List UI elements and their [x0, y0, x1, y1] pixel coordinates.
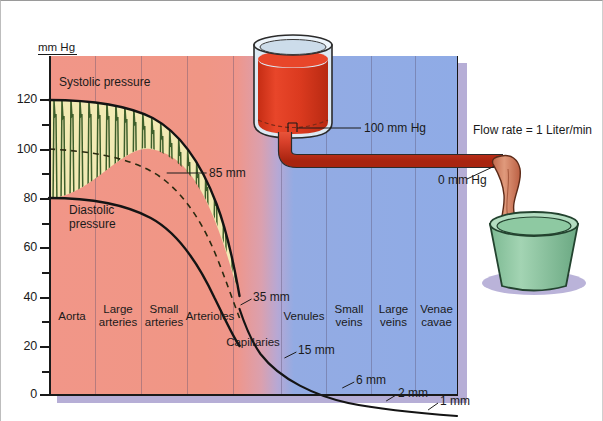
beaker-rim-outer [254, 35, 332, 55]
leader-line-35mm [241, 299, 252, 305]
pouring-fluid-stream [492, 156, 521, 249]
value-label-2mm: 2 mm [398, 386, 428, 400]
y-tick-label-0: 0 [7, 387, 37, 401]
y-tick-0 [40, 394, 49, 396]
y-tick-label-20: 20 [7, 339, 37, 353]
y-tick-60 [40, 247, 49, 249]
x-axis-line [49, 394, 458, 396]
value-label-85mm: 85 mm [209, 166, 246, 180]
leader-line-1mm [428, 403, 438, 410]
flow-rate-label: Flow rate = 1 Liter/min [473, 123, 592, 137]
systolic-pressure-label: Systolic pressure [59, 76, 150, 90]
y-tick-20 [40, 346, 49, 348]
y-tick-70 [42, 223, 49, 225]
value-label-6mm: 6 mm [356, 373, 386, 387]
y-tick-label-80: 80 [7, 191, 37, 205]
y-tick-label-100: 100 [7, 142, 37, 156]
y-axis-unit-label: mm Hg [38, 41, 75, 53]
diastolic-pressure-label: Diastolic pressure [69, 204, 116, 231]
basin-rim-outer [490, 212, 578, 236]
beaker-rim-inner [260, 40, 326, 55]
y-tick-120 [40, 99, 49, 101]
y-axis: mm Hg 120 100 80 60 40 20 0 [1, 1, 49, 421]
y-tick-110 [42, 124, 49, 126]
y-tick-80 [40, 198, 49, 200]
outlet-pressure-label: 0 mm Hg [438, 173, 487, 187]
y-tick-10 [42, 371, 49, 373]
reservoir-pressure-label: 100 mm Hg [364, 121, 426, 135]
region-label-large-veins: Large veins [371, 303, 416, 328]
region-label-aorta: Aorta [49, 310, 95, 323]
basin-rim-inner [497, 217, 571, 235]
y-tick-100 [40, 149, 49, 151]
leader-line-15mm [284, 352, 296, 358]
y-tick-30 [42, 321, 49, 323]
y-tick-50 [42, 272, 49, 274]
leader-line-6mm [342, 382, 354, 388]
region-label-large-arteries: Large arteries [95, 303, 141, 328]
region-label-small-veins: Small veins [326, 303, 372, 328]
catch-basin [490, 212, 578, 291]
figure-root: Systolic pressure Diastolic pressure Aor… [0, 0, 603, 421]
value-label-1mm: 1 mm [440, 394, 470, 408]
pressure-plot-panel: Systolic pressure Diastolic pressure Aor… [49, 56, 458, 395]
y-tick-90 [42, 173, 49, 175]
basin-shadow [482, 271, 586, 295]
region-label-small-arteries: Small arteries [141, 303, 187, 328]
value-label-35mm: 35 mm [253, 290, 290, 304]
y-tick-label-40: 40 [7, 290, 37, 304]
value-label-15mm: 15 mm [298, 343, 335, 357]
region-label-venae-cavae: Venae cavae [415, 303, 458, 328]
basin-body [490, 224, 578, 291]
y-tick-40 [40, 297, 49, 299]
region-label-venules: Venules [281, 310, 327, 323]
region-label-arterioles: Arterioles [185, 310, 235, 323]
stream-highlight [507, 169, 513, 241]
region-label-capillaries: Capillaries [215, 336, 291, 349]
y-axis-line [49, 56, 51, 396]
y-tick-label-120: 120 [7, 92, 37, 106]
y-tick-label-60: 60 [7, 240, 37, 254]
